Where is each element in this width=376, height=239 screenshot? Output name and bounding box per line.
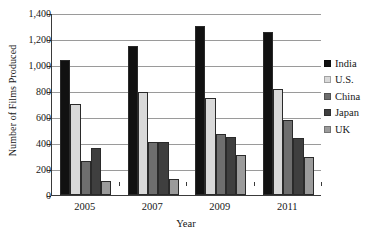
bar-group-2011 [255,14,323,195]
legend-item-china[interactable]: China [324,88,376,105]
legend-label: China [335,91,360,102]
bar-uk-2007[interactable] [169,179,179,195]
bar-china-2005[interactable] [81,161,91,195]
legend-label: Japan [335,107,359,118]
bar-india-2007[interactable] [128,46,138,196]
bar-us-2009[interactable] [205,98,215,196]
y-axis-tick-label: 400 [7,138,51,149]
x-axis-tick-mark [254,182,255,186]
bar-china-2009[interactable] [216,134,226,195]
x-axis-tick-label-2005: 2005 [55,201,115,212]
x-axis-tick-label-2007: 2007 [122,201,182,212]
bar-group-2005 [52,14,120,195]
y-axis-tick-label: 600 [7,112,51,123]
legend-item-us[interactable]: U.S. [324,72,376,89]
y-axis-tick-label: 0 [7,190,51,201]
bar-india-2005[interactable] [60,60,70,195]
bar-japan-2011[interactable] [293,138,303,195]
legend-item-japan[interactable]: Japan [324,105,376,122]
chart-legend: IndiaU.S.ChinaJapanUK [324,55,376,138]
bar-china-2007[interactable] [148,142,158,195]
bar-uk-2011[interactable] [304,157,314,195]
x-axis-tick-label-2011: 2011 [257,201,317,212]
legend-item-india[interactable]: India [324,55,376,72]
x-axis-title: Year [51,218,321,229]
legend-swatch-icon [324,76,331,83]
bar-chart: Number of Films Produced Year IndiaU.S.C… [0,0,376,239]
y-axis-tick-label: 800 [7,86,51,97]
y-axis-tick-label: 1,200 [7,34,51,45]
bar-group-2009 [187,14,255,195]
legend-label: India [335,58,357,69]
legend-item-uk[interactable]: UK [324,121,376,138]
y-axis-tick-label: 1,000 [7,60,51,71]
y-axis-tick-label: 1,400 [7,8,51,19]
bar-china-2011[interactable] [283,120,293,195]
bar-group-2007 [120,14,188,195]
x-axis-tick-mark [51,182,52,186]
x-axis-tick-mark [321,182,322,186]
legend-swatch-icon [324,60,331,67]
x-axis-tick-mark [119,182,120,186]
legend-label: U.S. [335,74,354,85]
bar-us-2007[interactable] [138,92,148,195]
bar-india-2009[interactable] [195,26,205,195]
plot-area [51,14,321,196]
bar-uk-2009[interactable] [236,155,246,195]
bar-japan-2005[interactable] [91,148,101,195]
bar-india-2011[interactable] [263,32,273,195]
bar-us-2005[interactable] [70,104,80,195]
bar-uk-2005[interactable] [101,181,111,195]
y-axis-tick-label: 200 [7,164,51,175]
bar-japan-2007[interactable] [158,142,168,195]
bar-us-2011[interactable] [273,89,283,195]
x-axis-tick-mark [186,182,187,186]
legend-label: UK [335,124,350,135]
chart-title [0,0,376,3]
bar-japan-2009[interactable] [226,137,236,195]
y-axis-title: Number of Films Produced [7,26,18,176]
legend-swatch-icon [324,109,331,116]
legend-swatch-icon [324,93,331,100]
legend-swatch-icon [324,126,331,133]
x-axis-tick-label-2009: 2009 [190,201,250,212]
